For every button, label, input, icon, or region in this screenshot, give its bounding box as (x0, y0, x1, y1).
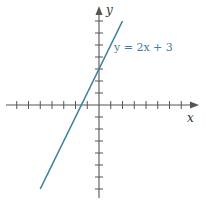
x-axis-label: x (187, 111, 194, 125)
y-axis-label: y (105, 3, 113, 17)
y-axis-arrow-icon (96, 6, 103, 15)
equation-label: y = 2x + 3 (113, 41, 173, 54)
x-axis-arrow-icon (190, 102, 199, 109)
coordinate-plane: y x y = 2x + 3 (0, 0, 206, 207)
